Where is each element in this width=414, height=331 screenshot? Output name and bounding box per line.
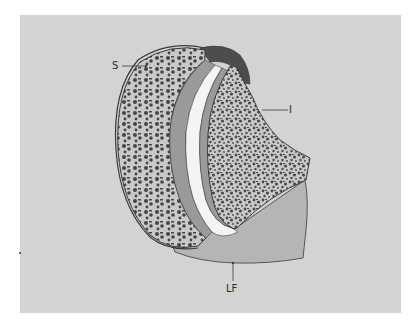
ligament-leader-dot [232,262,234,264]
label-ligament: LF [226,284,237,294]
label-sacrum: S [112,61,118,71]
stray-mark [19,252,21,254]
sacroiliac-joint-diagram [0,0,414,331]
label-ilium: I [289,105,292,115]
sacrum-leader-dot [145,65,147,67]
